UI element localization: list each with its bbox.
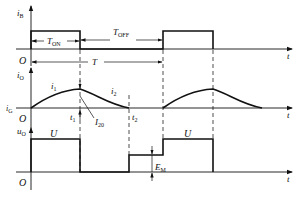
period-label: T (92, 57, 98, 67)
panel-io: iO iG O t i1 i2 I20 t1 t2 (6, 68, 292, 128)
io-curve-period-2 (163, 89, 262, 108)
i20-leader-line (80, 96, 94, 118)
uo-x-label: t (287, 174, 290, 184)
io-y-label: iO (17, 70, 25, 81)
io-origin-label: O (19, 113, 26, 124)
ib-origin-label: O (19, 55, 26, 66)
fall-curve-label: i2 (111, 86, 117, 97)
uo-voltage-waveform (31, 139, 213, 172)
io-x-label: t (287, 110, 290, 120)
t2-label: t2 (132, 112, 138, 123)
chopper-waveform-diagram: iB O t TON TOFF T iO iG O t i1 i2 (0, 0, 304, 203)
uo-origin-label: O (19, 177, 26, 188)
u-level-label-1: U (50, 128, 58, 139)
i20-label: I20 (94, 117, 104, 128)
toff-label: TOFF (113, 27, 130, 38)
uo-y-label: uO (17, 126, 27, 137)
rise-curve-label: i1 (51, 81, 57, 92)
t1-label: t1 (70, 112, 76, 123)
panel-ib: iB O t TON TOFF T (16, 6, 292, 67)
panel-uo: uO O t U U EM (16, 126, 292, 190)
ib-y-label: iB (17, 8, 24, 19)
time-guides (80, 50, 213, 172)
ton-label: TON (47, 36, 61, 47)
em-label: EM (154, 162, 167, 173)
io-level-label: iG (6, 104, 13, 114)
ib-x-label: t (287, 51, 290, 61)
u-level-label-2: U (184, 128, 192, 139)
